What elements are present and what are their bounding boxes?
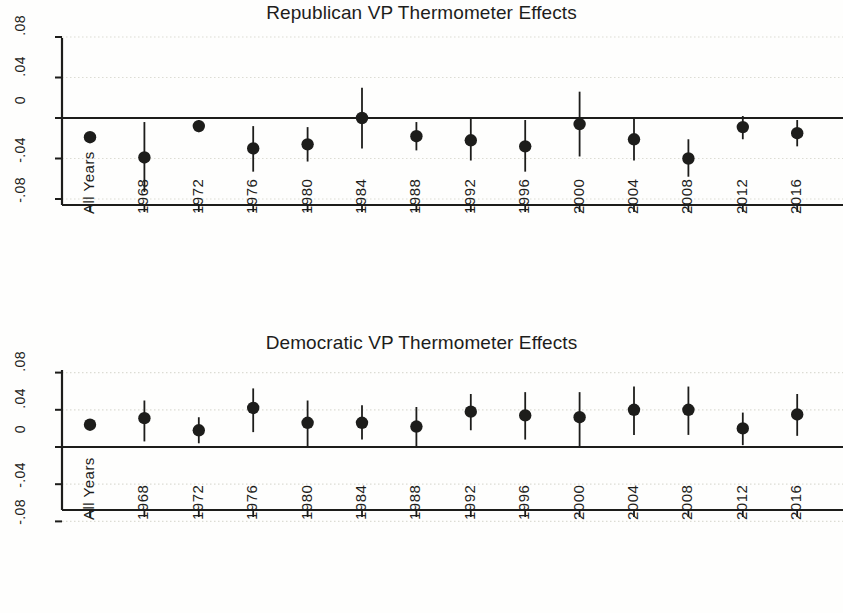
data-point-marker	[519, 140, 531, 152]
x-axis-tick-label: 1996	[515, 485, 532, 520]
x-axis-tick-label: 2008	[678, 179, 695, 214]
data-point-marker	[193, 120, 205, 132]
data-point-marker	[247, 142, 259, 154]
y-axis-tick-label: .08	[12, 15, 28, 36]
x-axis-tick-label: 1984	[352, 179, 369, 214]
data-point-marker	[356, 417, 368, 429]
data-point-marker	[138, 151, 150, 163]
x-axis-tick-label: 1992	[461, 179, 478, 214]
data-point-marker	[247, 402, 259, 414]
y-axis-tick-label: -.08	[12, 177, 28, 203]
data-point-marker	[519, 409, 531, 421]
data-point-marker	[628, 404, 640, 416]
x-axis-tick-label: 2004	[624, 179, 641, 214]
y-axis-tick-label: .08	[12, 351, 28, 372]
plot-svg	[0, 0, 843, 310]
y-axis-tick-label: .04	[12, 56, 28, 77]
x-axis-tick-label: 2016	[787, 179, 804, 214]
x-axis-tick-label: 1988	[406, 485, 423, 520]
x-axis-tick-label: 2000	[570, 485, 587, 520]
x-axis-tick-label: 2012	[733, 485, 750, 520]
y-axis-tick-label: 0	[12, 425, 28, 433]
x-axis-tick-label: 1976	[243, 485, 260, 520]
data-point-marker	[682, 152, 694, 164]
data-point-marker	[573, 118, 585, 130]
x-axis-tick-label: All Years	[80, 457, 97, 520]
x-axis-tick-label: 1968	[134, 485, 151, 520]
data-point-marker	[356, 112, 368, 124]
data-point-marker	[84, 131, 96, 143]
data-point-marker	[628, 133, 640, 145]
y-axis-tick-label: -.08	[12, 499, 28, 525]
data-point-marker	[410, 420, 422, 432]
data-point-marker	[791, 408, 803, 420]
data-point-marker	[573, 411, 585, 423]
x-axis-tick-label: 1996	[515, 179, 532, 214]
data-point-marker	[682, 404, 694, 416]
x-axis-tick-label: 1992	[461, 485, 478, 520]
x-axis-tick-label: 2000	[570, 179, 587, 214]
x-axis-tick-label: 1988	[406, 179, 423, 214]
panel-democratic: Democratic VP Thermometer Effects .08.04…	[0, 320, 843, 613]
data-point-marker	[410, 130, 422, 142]
plot-svg	[0, 320, 843, 613]
x-axis-tick-label: 1980	[298, 485, 315, 520]
x-axis-tick-label: 1980	[298, 179, 315, 214]
x-axis-tick-label: 2012	[733, 179, 750, 214]
x-axis-tick-label: 1972	[189, 485, 206, 520]
y-axis-tick-label: .04	[12, 388, 28, 409]
x-axis-tick-label: 1984	[352, 485, 369, 520]
x-axis-tick-label: 1968	[134, 179, 151, 214]
data-point-marker	[791, 127, 803, 139]
y-axis-tick-label: 0	[12, 96, 28, 104]
y-axis-tick-label: -.04	[12, 137, 28, 163]
panel-republican: Republican VP Thermometer Effects .08.04…	[0, 0, 843, 310]
x-axis-tick-label: All Years	[80, 151, 97, 214]
data-point-marker	[301, 138, 313, 150]
figure-canvas: Republican VP Thermometer Effects .08.04…	[0, 0, 843, 613]
x-axis-tick-label: 2008	[678, 485, 695, 520]
y-axis-tick-label: -.04	[12, 462, 28, 488]
data-point-marker	[193, 424, 205, 436]
data-point-marker	[301, 417, 313, 429]
data-point-marker	[737, 121, 749, 133]
data-point-marker	[84, 418, 96, 430]
x-axis-tick-label: 1972	[189, 179, 206, 214]
data-point-marker	[138, 412, 150, 424]
x-axis-tick-label: 2016	[787, 485, 804, 520]
x-axis-tick-label: 2004	[624, 485, 641, 520]
data-point-marker	[737, 422, 749, 434]
x-axis-tick-label: 1976	[243, 179, 260, 214]
data-point-marker	[465, 134, 477, 146]
data-point-marker	[465, 405, 477, 417]
